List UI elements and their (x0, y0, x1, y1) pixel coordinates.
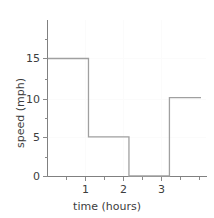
x-tick-label-2: 2 (120, 184, 127, 195)
y-tick-label-15: 15 (18, 53, 40, 64)
step-chart: 0 5 10 15 1 2 3 time (hours) speed (mph) (0, 0, 214, 218)
y-tick-label-0: 0 (18, 171, 40, 182)
x-axis-title: time (hours) (0, 200, 214, 213)
chart-plot-area (0, 0, 214, 218)
y-axis-ticks (43, 40, 48, 177)
y-axis-title: speed (mph) (14, 78, 27, 148)
x-tick-label-1: 1 (82, 184, 89, 195)
x-tick-label-3: 3 (158, 184, 165, 195)
step-line-series (48, 59, 201, 177)
x-axis-ticks (67, 177, 200, 182)
